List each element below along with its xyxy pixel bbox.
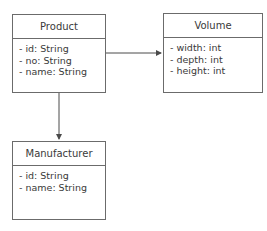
- class-volume[interactable]: Volume - width: int - depth: int - heigh…: [163, 13, 263, 93]
- attribute: - name: String: [19, 182, 99, 194]
- class-product-name: Product: [13, 15, 105, 39]
- class-product-attributes: - id: String - no: String - name: String: [13, 39, 105, 82]
- attribute: - height: int: [170, 65, 256, 77]
- attribute: - id: String: [19, 43, 99, 55]
- class-manufacturer-name: Manufacturer: [13, 142, 105, 166]
- attribute: - width: int: [170, 42, 256, 54]
- attribute: - depth: int: [170, 54, 256, 66]
- attribute: - id: String: [19, 170, 99, 182]
- class-volume-attributes: - width: int - depth: int - height: int: [164, 38, 262, 81]
- class-manufacturer[interactable]: Manufacturer - id: String - name: String: [12, 141, 106, 220]
- class-manufacturer-attributes: - id: String - name: String: [13, 166, 105, 197]
- attribute: - name: String: [19, 66, 99, 78]
- class-volume-name: Volume: [164, 14, 262, 38]
- class-product[interactable]: Product - id: String - no: String - name…: [12, 14, 106, 93]
- attribute: - no: String: [19, 55, 99, 67]
